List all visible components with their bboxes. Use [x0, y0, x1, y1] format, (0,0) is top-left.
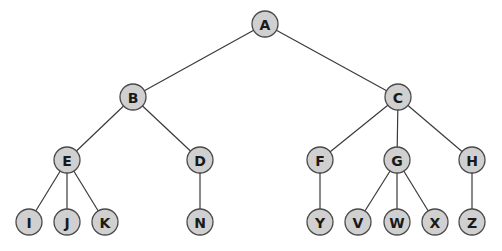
edge-a-b	[133, 24, 265, 97]
node-label: H	[466, 153, 478, 169]
node-label: F	[315, 153, 325, 169]
node-n: N	[187, 209, 213, 235]
edge-a-c	[265, 24, 398, 97]
node-label: X	[430, 215, 441, 231]
edge-c-h	[398, 97, 472, 160]
node-c: C	[385, 84, 411, 110]
node-label: V	[353, 215, 364, 231]
node-d: D	[187, 147, 213, 173]
tree-nodes: ABCEDFGHIJKNYVWXZ	[16, 11, 485, 235]
node-x: X	[422, 209, 448, 235]
node-label: K	[100, 215, 112, 231]
node-label: Z	[467, 215, 477, 231]
node-h: H	[459, 147, 485, 173]
node-w: W	[384, 209, 410, 235]
tree-edges	[29, 24, 472, 222]
node-f: F	[307, 147, 333, 173]
node-label: A	[260, 17, 271, 33]
node-label: W	[389, 215, 404, 231]
edge-c-f	[320, 97, 398, 160]
node-v: V	[345, 209, 371, 235]
node-g: G	[384, 147, 410, 173]
node-label: G	[391, 153, 403, 169]
node-k: K	[92, 209, 118, 235]
edge-b-e	[67, 97, 133, 160]
node-label: J	[63, 215, 69, 231]
node-label: D	[194, 153, 206, 169]
node-j: J	[54, 209, 80, 235]
node-label: Y	[314, 215, 326, 231]
node-i: I	[16, 209, 42, 235]
node-y: Y	[307, 209, 333, 235]
tree-diagram: ABCEDFGHIJKNYVWXZ	[0, 0, 502, 251]
node-label: B	[128, 90, 139, 106]
node-b: B	[120, 84, 146, 110]
node-label: I	[26, 215, 31, 231]
node-e: E	[54, 147, 80, 173]
node-label: E	[62, 153, 72, 169]
edge-b-d	[133, 97, 200, 160]
node-label: N	[194, 215, 206, 231]
node-a: A	[252, 11, 278, 37]
node-z: Z	[459, 209, 485, 235]
node-label: C	[393, 90, 403, 106]
